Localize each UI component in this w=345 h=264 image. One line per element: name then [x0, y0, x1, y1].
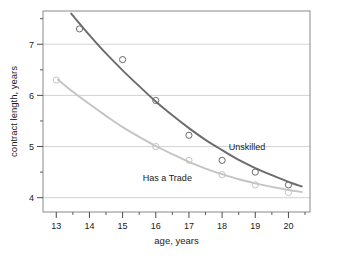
- y-axis-ticks-group: 4567: [29, 19, 43, 204]
- x-tick-label-17: 17: [184, 221, 194, 231]
- data-point-unskilled-4: [219, 157, 225, 163]
- x-tick-label-15: 15: [118, 221, 128, 231]
- y-axis-label: contract length, years: [8, 66, 19, 157]
- scatter-chart: 1314151617181920 4567 Has a TradeUnskill…: [0, 0, 345, 264]
- x-tick-label-19: 19: [250, 221, 260, 231]
- data-point-unskilled-0: [76, 26, 82, 32]
- series-curves-group: [58, 14, 302, 192]
- x-tick-label-16: 16: [151, 221, 161, 231]
- chart-container: 1314151617181920 4567 Has a TradeUnskill…: [0, 0, 345, 264]
- x-tick-label-14: 14: [84, 221, 94, 231]
- x-axis-label: age, years: [154, 235, 199, 246]
- series-label-unskilled: Unskilled: [229, 142, 266, 152]
- series-label-has-a-trade: Has a Trade: [143, 173, 192, 183]
- data-point-unskilled-1: [120, 56, 126, 62]
- x-tick-label-18: 18: [217, 221, 227, 231]
- x-axis-ticks-group: 1314151617181920: [51, 212, 305, 231]
- data-point-unskilled-3: [186, 132, 192, 138]
- x-tick-label-13: 13: [51, 221, 61, 231]
- y-tick-label-4: 4: [29, 193, 34, 203]
- x-tick-label-20: 20: [283, 221, 293, 231]
- y-tick-label-6: 6: [29, 91, 34, 101]
- y-tick-label-5: 5: [29, 142, 34, 152]
- axis-labels-group: age, yearscontract length, years: [8, 66, 199, 246]
- data-point-unskilled-5: [252, 169, 258, 175]
- series-markers-group: [53, 26, 291, 196]
- y-tick-label-7: 7: [29, 40, 34, 50]
